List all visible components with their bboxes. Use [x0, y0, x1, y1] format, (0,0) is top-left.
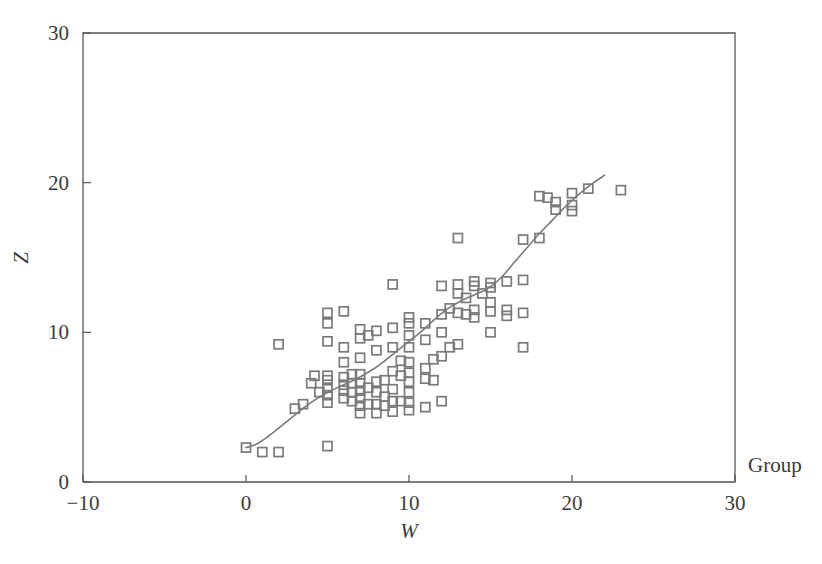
y-tick-label-0: 0: [59, 470, 70, 494]
y-axis-title: Z: [9, 252, 33, 264]
x-tick-label-3: 20: [562, 491, 583, 515]
x-tick-label-2: 10: [399, 491, 420, 515]
y-tick-label-3: 30: [48, 21, 69, 45]
plot-canvas: −100102030 0102030 W Z Group: [0, 0, 822, 564]
x-tick-label-1: 0: [241, 491, 252, 515]
x-tick-label-0: −10: [67, 491, 100, 515]
x-axis-title: W: [400, 519, 420, 543]
scatter-plot-figure: −100102030 0102030 W Z Group: [0, 0, 822, 564]
x-tick-label-4: 30: [725, 491, 746, 515]
y-tick-label-2: 20: [48, 171, 69, 195]
legend-title: Group: [748, 453, 802, 477]
figure-background: [0, 0, 822, 564]
y-tick-label-1: 10: [48, 320, 69, 344]
